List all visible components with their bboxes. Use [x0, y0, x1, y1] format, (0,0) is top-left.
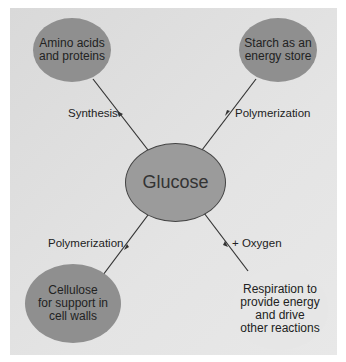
node-glucose: Glucose — [125, 143, 226, 222]
edge-label-oxygen: + Oxygen — [232, 237, 282, 249]
node-starch: Starch as anenergy store — [239, 18, 317, 82]
node-amino-acids: Amino acidsand proteins — [33, 18, 111, 82]
edge-label-synthesis: Synthesis — [68, 107, 118, 119]
arrow-head-icon — [124, 244, 129, 250]
edge-label-polymerization-cellulose: Polymerization — [48, 237, 123, 249]
node-cellulose: Cellulosefor support incell walls — [25, 264, 121, 343]
node-respiration: Respiration toprovide energyand driveoth… — [232, 268, 328, 350]
edge-label-polymerization-starch: Polymerization — [235, 107, 310, 119]
